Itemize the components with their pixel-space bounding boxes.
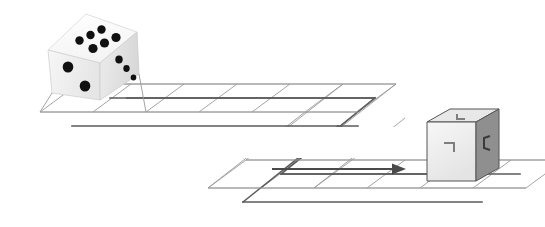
die-pip — [86, 31, 94, 39]
die-pip — [75, 36, 83, 44]
figure-canvas — [0, 0, 545, 227]
inner-lane-lower-redraw — [262, 174, 430, 189]
die-pip — [111, 33, 120, 42]
figure-svg — [0, 0, 545, 227]
die-pip — [115, 56, 122, 64]
die-pip — [100, 38, 109, 47]
lower-grid-divider — [526, 174, 545, 188]
die-pip — [97, 25, 105, 33]
die-pip — [63, 61, 74, 72]
die-pip — [80, 80, 91, 91]
target-cube — [427, 109, 499, 181]
die-footprint-left — [40, 93, 52, 112]
cube-right-face — [476, 109, 499, 181]
cube-front-face — [427, 122, 476, 181]
die-pip — [88, 44, 97, 53]
die-pip — [123, 65, 129, 72]
die-pip — [131, 75, 137, 81]
arrow-head — [392, 164, 406, 175]
